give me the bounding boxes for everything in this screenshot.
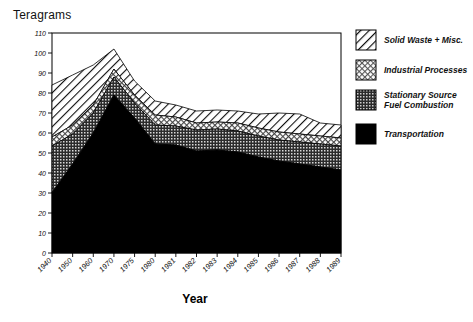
y-tick-label: 40 (38, 170, 46, 177)
y-tick-label: 80 (38, 90, 46, 97)
legend-swatches (356, 30, 376, 144)
x-tick-label: 1975 (118, 255, 137, 274)
y-axis-title: Teragrams (13, 8, 71, 22)
x-tick-label: 1950 (56, 255, 75, 274)
y-tick-label: 50 (38, 150, 46, 157)
x-axis-title: Year (0, 292, 390, 306)
legend-label-stationary-line2: Fuel Combustion (384, 100, 453, 111)
x-tick-label: 1989 (324, 255, 343, 274)
legend-swatch-stationary (356, 90, 376, 110)
y-axis-ticks: 0102030405060708090100110 (34, 30, 52, 257)
x-tick-label: 1987 (283, 255, 302, 274)
y-tick-label: 100 (34, 50, 46, 57)
y-tick-label: 20 (37, 210, 46, 217)
y-tick-label: 10 (38, 230, 46, 237)
y-tick-label: 70 (38, 110, 46, 117)
chart-figure: Teragrams Year (0, 0, 473, 322)
legend-label-stationary: Stationary Source (384, 90, 457, 101)
stacked-area-plot: 0102030405060708090100110 19401950196019… (0, 0, 473, 322)
legend-label-transportation: Transportation (384, 129, 444, 140)
legend-label-solid-waste: Solid Waste + Misc. (384, 35, 463, 46)
legend-swatch-transportation (356, 124, 376, 144)
y-tick-label: 110 (35, 30, 46, 37)
x-tick-label: 1986 (262, 255, 281, 274)
x-tick-label: 1985 (242, 255, 261, 274)
x-tick-label: 1983 (200, 255, 219, 274)
legend-swatch-industrial (356, 60, 376, 80)
y-tick-label: 90 (38, 70, 46, 77)
legend-swatch-solid-waste (356, 30, 376, 50)
x-tick-label: 1982 (180, 255, 199, 274)
x-tick-label: 1970 (97, 255, 116, 274)
x-axis-ticks: 1940195019601970197519801981198219831984… (35, 253, 343, 274)
x-tick-label: 1981 (159, 256, 177, 274)
x-tick-label: 1988 (304, 255, 323, 274)
x-tick-label: 1940 (35, 255, 54, 274)
x-tick-label: 1960 (77, 255, 96, 274)
x-tick-label: 1980 (138, 255, 157, 274)
legend-label-industrial: Industrial Processes (384, 65, 467, 76)
y-tick-label: 0 (42, 250, 46, 257)
y-tick-label: 60 (38, 130, 46, 137)
y-tick-label: 30 (38, 190, 46, 197)
x-tick-label: 1984 (221, 256, 239, 274)
